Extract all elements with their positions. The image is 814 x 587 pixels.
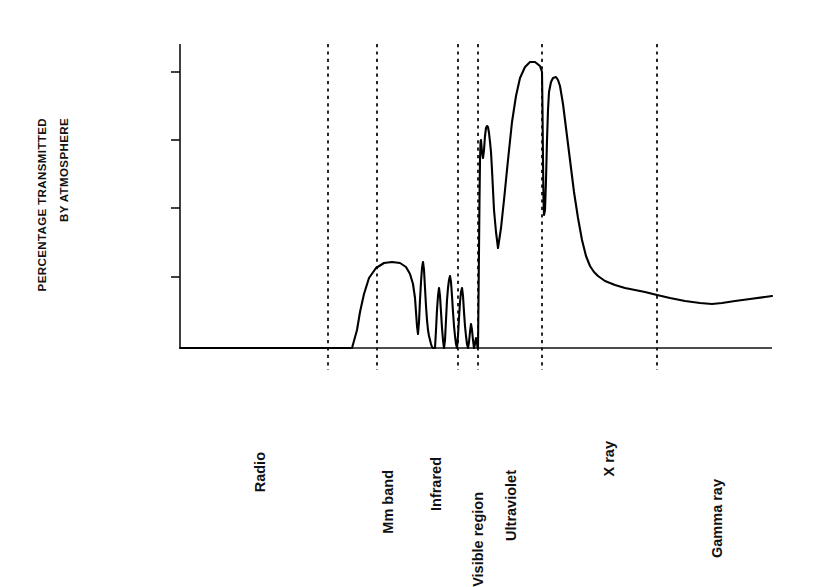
axis-lines <box>180 44 772 348</box>
data-series-group <box>180 62 772 348</box>
band-divider-lines <box>328 44 657 370</box>
y-axis-ticks <box>171 72 180 277</box>
transmission-curve <box>180 62 772 348</box>
